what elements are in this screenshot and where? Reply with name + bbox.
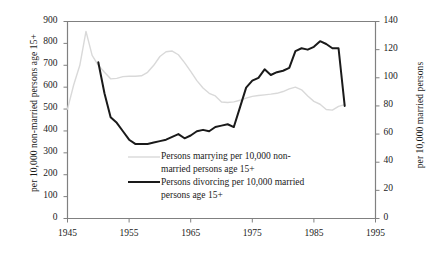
legend-entry-divorcing: Persons divorcing per 10,000 married per… xyxy=(161,176,304,201)
legend-entry-divorcing-line2: persons age 15+ xyxy=(161,189,304,202)
legend-entry-divorcing-line1: Persons divorcing per 10,000 married xyxy=(161,176,304,189)
legend-entry-marrying: Persons marrying per 10,000 non- married… xyxy=(161,150,291,175)
series-line-marrying xyxy=(68,31,345,110)
plot-area xyxy=(0,0,441,256)
chart-figure: per 10,000 non-married persons age 15+ p… xyxy=(0,0,441,256)
legend-swatches xyxy=(128,157,160,182)
legend-entry-marrying-line1: Persons marrying per 10,000 non- xyxy=(161,150,291,163)
legend-entry-marrying-line2: married persons age 15+ xyxy=(161,163,291,176)
series-line-divorcing xyxy=(98,41,344,144)
data-series xyxy=(68,31,345,144)
